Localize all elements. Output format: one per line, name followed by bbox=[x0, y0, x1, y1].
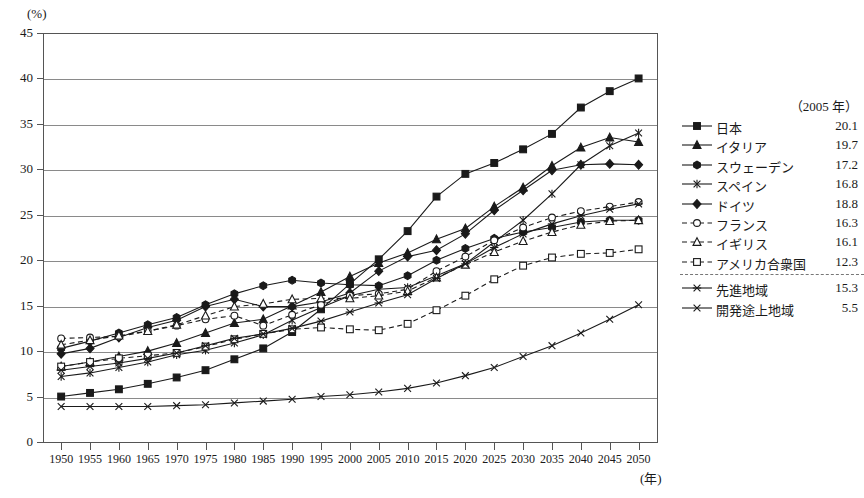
x-tick-mark bbox=[581, 443, 582, 450]
y-tick-label: 0 bbox=[3, 435, 33, 448]
data-point-square-filled bbox=[549, 130, 556, 137]
data-point-square-open bbox=[549, 254, 556, 261]
chart-root: (%) 051015202530354045 19501955196019651… bbox=[0, 0, 864, 498]
legend-marker-x-star bbox=[680, 174, 714, 193]
x-axis-unit-label: (年) bbox=[640, 468, 662, 487]
legend-item[interactable]: スペイン16.8 bbox=[680, 174, 864, 193]
x-tick-mark bbox=[119, 443, 120, 450]
legend-header-year: （2005 年） bbox=[790, 96, 858, 115]
x-tick-mark bbox=[350, 443, 351, 450]
legend-label: スウェーデン bbox=[716, 157, 794, 176]
data-point-asterisk bbox=[346, 309, 354, 316]
x-tick-mark bbox=[292, 443, 293, 450]
series-line bbox=[61, 202, 638, 338]
legend-item[interactable]: ドイツ18.8 bbox=[680, 194, 864, 213]
data-point-circle-open bbox=[491, 237, 498, 244]
chart-svg bbox=[43, 33, 658, 443]
x-tick-mark bbox=[436, 443, 437, 450]
data-point-x-star bbox=[606, 142, 613, 150]
legend-item[interactable]: イタリア19.7 bbox=[680, 135, 864, 154]
x-tick-mark bbox=[379, 443, 380, 450]
legend-item[interactable]: フランス16.3 bbox=[680, 213, 864, 232]
legend-item[interactable]: 開発途上地域5.5 bbox=[680, 298, 864, 317]
data-point-square-filled bbox=[433, 193, 440, 200]
data-point-diamond-filled bbox=[606, 159, 614, 168]
legend-value-2005: 19.7 bbox=[835, 137, 858, 153]
data-point-x-star bbox=[635, 129, 642, 137]
x-tick-mark bbox=[408, 443, 409, 450]
data-point-square-filled bbox=[231, 356, 238, 363]
legend-marker-asterisk bbox=[680, 278, 714, 297]
legend-label: スペイン bbox=[716, 176, 767, 195]
x-tick-mark bbox=[148, 443, 149, 450]
data-point-x-mark bbox=[577, 330, 584, 337]
data-point-square-filled bbox=[260, 345, 267, 352]
x-tick-mark bbox=[206, 443, 207, 450]
data-point-x-mark bbox=[635, 301, 642, 308]
data-point-circle-open bbox=[694, 220, 701, 227]
data-point-x-mark bbox=[549, 342, 556, 349]
legend-value-2005: 16.8 bbox=[835, 176, 858, 192]
data-point-circle-open bbox=[231, 312, 238, 319]
data-point-square-filled bbox=[577, 104, 584, 111]
legend-rows: 日本20.1イタリア19.7スウェーデン17.2スペイン16.8ドイツ18.8フ… bbox=[680, 116, 864, 317]
legend: （2005 年） 日本20.1イタリア19.7スウェーデン17.2スペイン16.… bbox=[680, 96, 864, 317]
legend-item[interactable]: 日本20.1 bbox=[680, 116, 864, 135]
x-tick-mark bbox=[263, 443, 264, 450]
legend-marker-triangle-filled bbox=[680, 135, 714, 154]
y-tick-label: 45 bbox=[3, 26, 33, 39]
x-tick-mark bbox=[465, 443, 466, 450]
data-point-hexagon-filled bbox=[694, 161, 701, 169]
data-point-square-open bbox=[635, 246, 642, 253]
data-point-square-filled bbox=[58, 393, 65, 400]
x-tick-mark bbox=[610, 443, 611, 450]
data-point-square-filled bbox=[635, 75, 642, 82]
series-layer bbox=[43, 33, 658, 443]
data-point-triangle-open bbox=[259, 300, 267, 308]
legend-item[interactable]: 先進地域15.3 bbox=[680, 278, 864, 297]
legend-item[interactable]: アメリカ合衆国12.3 bbox=[680, 252, 864, 271]
data-point-circle-open bbox=[462, 253, 469, 260]
legend-value-2005: 20.1 bbox=[835, 118, 858, 134]
data-point-hexagon-filled bbox=[260, 282, 267, 290]
y-tick-label: 35 bbox=[3, 117, 33, 130]
legend-item[interactable]: イギリス16.1 bbox=[680, 232, 864, 251]
data-point-triangle-open bbox=[202, 311, 210, 319]
data-point-square-open bbox=[462, 292, 469, 299]
data-point-square-filled bbox=[115, 386, 122, 393]
data-point-square-filled bbox=[87, 390, 94, 397]
data-point-hexagon-filled bbox=[318, 279, 325, 287]
data-point-square-filled bbox=[606, 88, 613, 95]
data-point-square-filled bbox=[694, 123, 701, 130]
y-tick-label: 40 bbox=[3, 71, 33, 84]
y-tick-label: 25 bbox=[3, 208, 33, 221]
x-tick-mark bbox=[234, 443, 235, 450]
data-point-square-open bbox=[491, 276, 498, 283]
data-point-x-mark bbox=[491, 364, 498, 371]
data-point-circle-open bbox=[520, 224, 527, 231]
data-point-asterisk bbox=[317, 318, 325, 325]
y-tick-label: 10 bbox=[3, 344, 33, 357]
legend-value-2005: 12.3 bbox=[835, 254, 858, 270]
y-axis-unit-label: (%) bbox=[27, 6, 47, 22]
data-point-diamond-filled bbox=[375, 267, 383, 276]
legend-label: イギリス bbox=[716, 234, 768, 253]
data-point-triangle-filled bbox=[259, 315, 267, 323]
legend-marker-triangle-open bbox=[680, 232, 714, 251]
data-point-circle-open bbox=[289, 311, 296, 318]
y-tick-label: 20 bbox=[3, 253, 33, 266]
data-point-asterisk bbox=[375, 300, 383, 307]
x-tick-mark bbox=[321, 443, 322, 450]
data-point-triangle-filled bbox=[432, 235, 440, 243]
series-5 bbox=[58, 199, 642, 342]
data-point-triangle-filled bbox=[346, 272, 354, 280]
legend-value-2005: 5.5 bbox=[842, 300, 858, 316]
legend-label: ドイツ bbox=[716, 196, 755, 215]
legend-item[interactable]: スウェーデン17.2 bbox=[680, 155, 864, 174]
data-point-circle-open bbox=[318, 301, 325, 308]
legend-label: 日本 bbox=[716, 118, 742, 137]
legend-marker-square-open bbox=[680, 252, 714, 271]
data-point-square-open bbox=[346, 326, 353, 333]
legend-label: フランス bbox=[716, 215, 768, 234]
data-point-square-open bbox=[606, 250, 613, 257]
